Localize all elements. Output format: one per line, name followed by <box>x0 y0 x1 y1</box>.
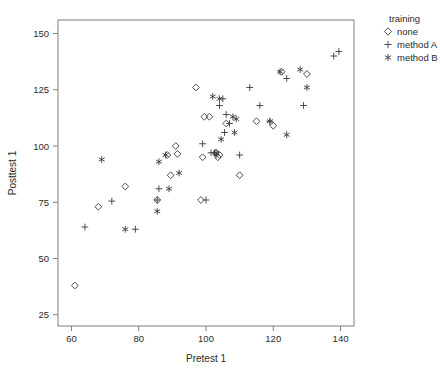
legend-marker-diamond-icon <box>384 28 391 35</box>
y-tick-label: 125 <box>33 84 49 95</box>
data-point <box>154 208 160 215</box>
data-point <box>154 197 161 204</box>
data-point <box>256 102 263 109</box>
data-point <box>216 102 223 109</box>
data-point <box>71 282 78 289</box>
data-point <box>199 140 206 147</box>
data-point <box>330 53 337 60</box>
x-tick-label: 60 <box>66 333 77 344</box>
data-point <box>166 185 172 192</box>
chart-canvas: 6080100120140 255075100125150 Pretest 1 … <box>0 0 440 375</box>
data-point <box>297 66 303 73</box>
data-point <box>201 113 208 120</box>
series-none <box>71 68 310 289</box>
data-point <box>122 183 129 190</box>
data-point <box>236 172 243 179</box>
x-tick-label: 120 <box>265 333 281 344</box>
series-method-b <box>99 66 310 233</box>
y-tick-label: 75 <box>38 197 49 208</box>
legend-title: training <box>389 13 420 24</box>
data-point <box>174 150 181 157</box>
x-axis-title: Pretest 1 <box>186 353 226 364</box>
x-axis-ticks: 6080100120140 <box>66 326 348 344</box>
plot-frame <box>58 20 354 326</box>
data-point <box>156 158 162 165</box>
legend-item-label: none <box>397 26 418 37</box>
y-tick-label: 100 <box>33 141 49 152</box>
data-point <box>284 131 290 138</box>
legend-item-label: method B <box>397 52 438 63</box>
data-point <box>246 84 253 91</box>
legend-marker-star-icon <box>385 54 391 61</box>
data-point <box>236 152 243 159</box>
x-tick-label: 140 <box>333 333 349 344</box>
scatter-chart: 6080100120140 255075100125150 Pretest 1 … <box>0 0 440 375</box>
data-point <box>95 203 102 210</box>
data-point <box>335 48 342 55</box>
data-point <box>172 143 179 150</box>
data-point <box>270 122 277 129</box>
data-point <box>176 170 182 177</box>
data-point <box>99 156 105 163</box>
data-point <box>304 84 310 91</box>
legend-entries: nonemethod Amethod B <box>384 26 437 63</box>
y-tick-label: 25 <box>38 309 49 320</box>
data-point <box>300 102 307 109</box>
data-point <box>283 75 290 82</box>
data-point <box>219 95 226 102</box>
y-axis-ticks: 255075100125150 <box>33 28 58 320</box>
data-point <box>82 224 89 231</box>
legend-item-label: method A <box>397 39 438 50</box>
x-tick-label: 80 <box>133 333 144 344</box>
data-point <box>199 154 206 161</box>
data-point <box>210 93 216 100</box>
chart-legend: training nonemethod Amethod B <box>384 13 437 63</box>
data-point <box>218 136 224 143</box>
y-tick-label: 50 <box>38 253 49 264</box>
data-point <box>156 185 163 192</box>
legend-item-method-a[interactable]: method A <box>384 39 437 50</box>
data-point <box>206 113 213 120</box>
data-point <box>193 84 200 91</box>
y-tick-label: 150 <box>33 28 49 39</box>
legend-marker-plus-icon <box>384 41 391 48</box>
y-axis-title: Posttest 1 <box>7 150 18 195</box>
data-point <box>132 226 139 233</box>
series-method-a <box>82 48 343 233</box>
data-point <box>122 226 128 233</box>
data-points-layer <box>71 48 342 289</box>
data-point <box>230 113 236 120</box>
legend-item-none[interactable]: none <box>384 26 418 37</box>
data-point <box>167 172 174 179</box>
data-point <box>232 129 238 136</box>
data-point <box>108 198 115 205</box>
data-point <box>233 116 239 123</box>
data-point <box>221 129 228 136</box>
legend-item-method-b[interactable]: method B <box>385 52 438 63</box>
data-point <box>304 71 311 78</box>
x-tick-label: 100 <box>198 333 214 344</box>
data-point <box>253 118 260 125</box>
data-point <box>223 111 230 118</box>
data-point <box>203 197 210 204</box>
